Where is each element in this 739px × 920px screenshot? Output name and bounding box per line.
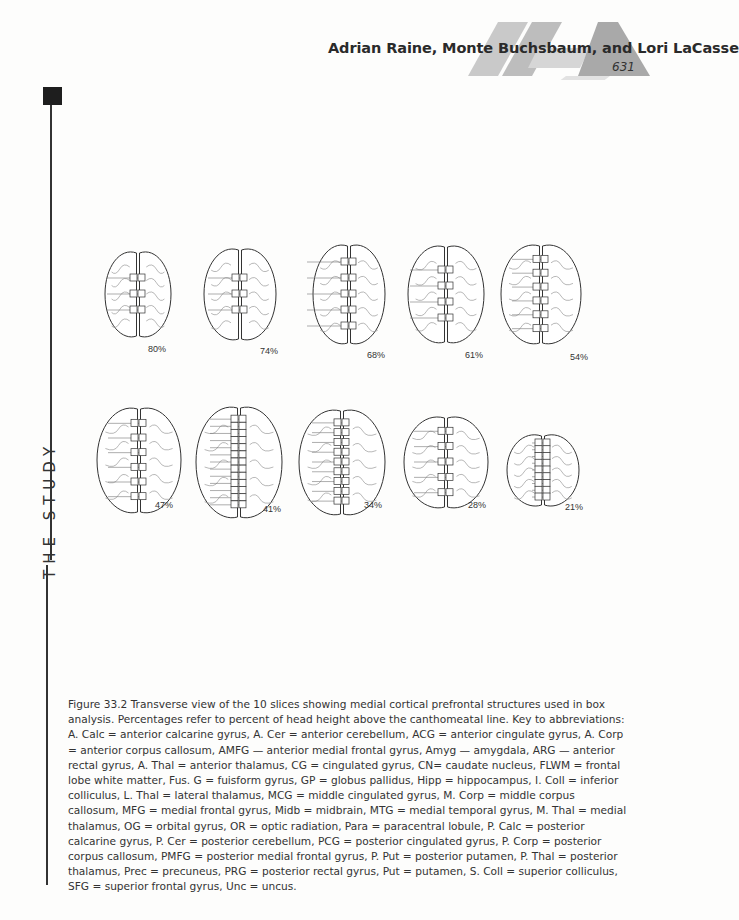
roi-box: [535, 473, 542, 480]
running-header-authors: Adrian Raine, Monte Buchsbaum, and Lori …: [328, 40, 739, 56]
roi-box: [543, 459, 550, 466]
roi-box: [543, 466, 550, 473]
roi-box: [543, 439, 550, 446]
roi-box: [535, 452, 542, 459]
brain-outline-icon: [0, 0, 647, 560]
roi-box: [535, 480, 542, 487]
roi-box: [535, 493, 542, 500]
roi-box: [543, 473, 550, 480]
margin-rule-bottom: [46, 565, 48, 885]
roi-box: [535, 446, 542, 453]
figure-caption: Figure 33.2 Transverse view of the 10 sl…: [68, 697, 628, 895]
roi-box: [543, 480, 550, 487]
roi-box: [543, 452, 550, 459]
page-number: 631: [612, 60, 635, 74]
roi-box: [535, 486, 542, 493]
roi-box: [535, 466, 542, 473]
roi-box: [535, 439, 542, 446]
roi-box: [543, 446, 550, 453]
roi-box: [543, 486, 550, 493]
slice-percent-label: 21%: [565, 502, 583, 512]
roi-box: [535, 459, 542, 466]
roi-box: [543, 493, 550, 500]
